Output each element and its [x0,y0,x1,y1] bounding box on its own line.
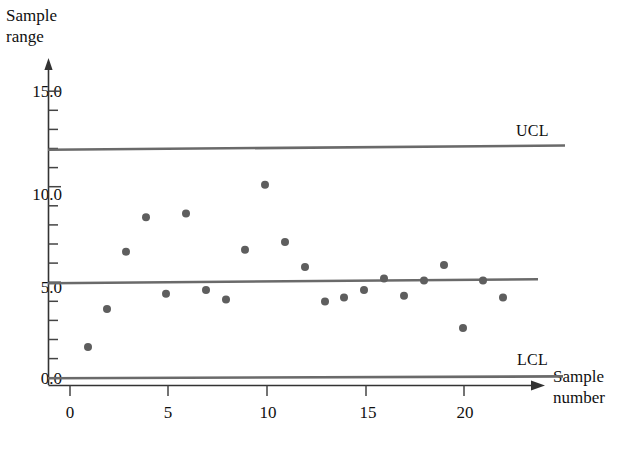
data-point [340,294,348,302]
x-axis-arrowhead [531,381,545,391]
data-point [84,343,92,351]
data-point [360,286,368,294]
data-point [301,263,309,271]
data-point [122,248,130,256]
data-point [142,213,150,221]
control-chart: Sample range Sample number 15.0 10.0 5.0… [0,0,631,452]
data-point [281,238,289,246]
data-point [479,276,487,284]
data-point [241,246,249,254]
data-point [222,296,230,304]
y-axis-ticks [49,91,62,378]
chart-canvas [0,0,631,452]
data-point [182,210,190,218]
x-axis-group [49,381,546,391]
x-axis-ticks [70,386,464,397]
data-point [380,275,388,283]
data-point [321,297,329,305]
data-point [261,181,269,189]
data-point [459,324,467,332]
data-point [202,286,210,294]
lcl-line [48,376,563,378]
y-axis-arrowhead [44,58,52,70]
data-point [103,305,111,313]
data-points [84,181,507,351]
data-point [162,290,170,298]
data-point [400,292,408,300]
data-point [499,294,507,302]
data-point [420,276,428,284]
data-point [440,261,448,269]
y-axis-group [44,58,52,385]
center-line [48,279,538,283]
ucl-line [48,146,565,150]
